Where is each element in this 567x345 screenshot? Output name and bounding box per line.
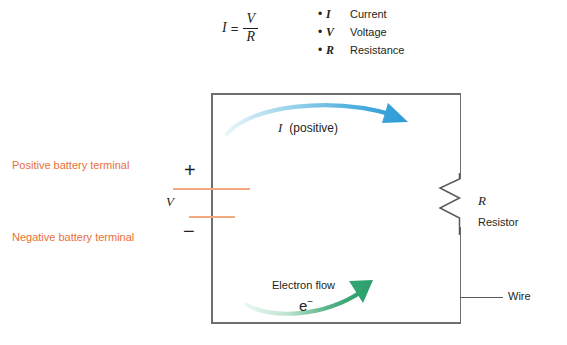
wire-leader-line bbox=[460, 297, 503, 298]
electron-flow-label: Electron flow bbox=[272, 279, 335, 291]
resistor-symbol-icon bbox=[432, 172, 470, 236]
circuit-wire-left bbox=[211, 93, 213, 324]
formula-numerator: V bbox=[243, 12, 258, 28]
negative-terminal-label: Negative battery terminal bbox=[12, 231, 134, 243]
circuit-wire-right-upper bbox=[460, 93, 462, 179]
legend-item-current: • I Current bbox=[318, 7, 404, 25]
circuit-wire-top bbox=[211, 93, 461, 95]
legend-symbol: R bbox=[326, 43, 350, 58]
resistor-name-label: Resistor bbox=[478, 216, 518, 228]
circuit-diagram: I = V R • I Current • V Voltage • R Resi… bbox=[0, 0, 567, 345]
minus-sign-icon: − bbox=[183, 221, 195, 241]
electron-symbol: e− bbox=[299, 297, 313, 313]
variable-legend: • I Current • V Voltage • R Resistance bbox=[318, 7, 404, 61]
bullet-icon: • bbox=[318, 26, 326, 38]
legend-label: Voltage bbox=[350, 26, 387, 38]
legend-label: Resistance bbox=[350, 44, 404, 56]
bullet-icon: • bbox=[318, 8, 326, 20]
legend-symbol: V bbox=[326, 25, 350, 40]
wire-name-label: Wire bbox=[508, 290, 531, 302]
circuit-wire-right-lower bbox=[460, 227, 462, 323]
battery-negative-plate bbox=[189, 216, 235, 218]
legend-item-resistance: • R Resistance bbox=[318, 43, 404, 61]
current-symbol: I bbox=[278, 120, 282, 135]
formula-current-symbol: I bbox=[222, 21, 227, 35]
electron-charge-sign: − bbox=[307, 296, 313, 307]
legend-item-voltage: • V Voltage bbox=[318, 25, 404, 43]
resistance-symbol-label: R bbox=[478, 193, 486, 209]
legend-label: Current bbox=[350, 8, 387, 20]
ohms-law-formula: I = V R bbox=[222, 12, 258, 44]
current-qualifier: (positive) bbox=[289, 121, 338, 135]
battery-positive-plate bbox=[173, 188, 250, 190]
current-direction-label: I(positive) bbox=[278, 120, 338, 136]
positive-terminal-label: Positive battery terminal bbox=[12, 159, 129, 171]
legend-symbol: I bbox=[326, 7, 350, 22]
bullet-icon: • bbox=[318, 44, 326, 56]
formula-denominator: R bbox=[243, 29, 258, 45]
voltage-label: V bbox=[166, 194, 174, 210]
plus-sign-icon: + bbox=[184, 160, 196, 180]
formula-equals-sign: = bbox=[231, 22, 239, 35]
formula-fraction: V R bbox=[243, 12, 258, 44]
